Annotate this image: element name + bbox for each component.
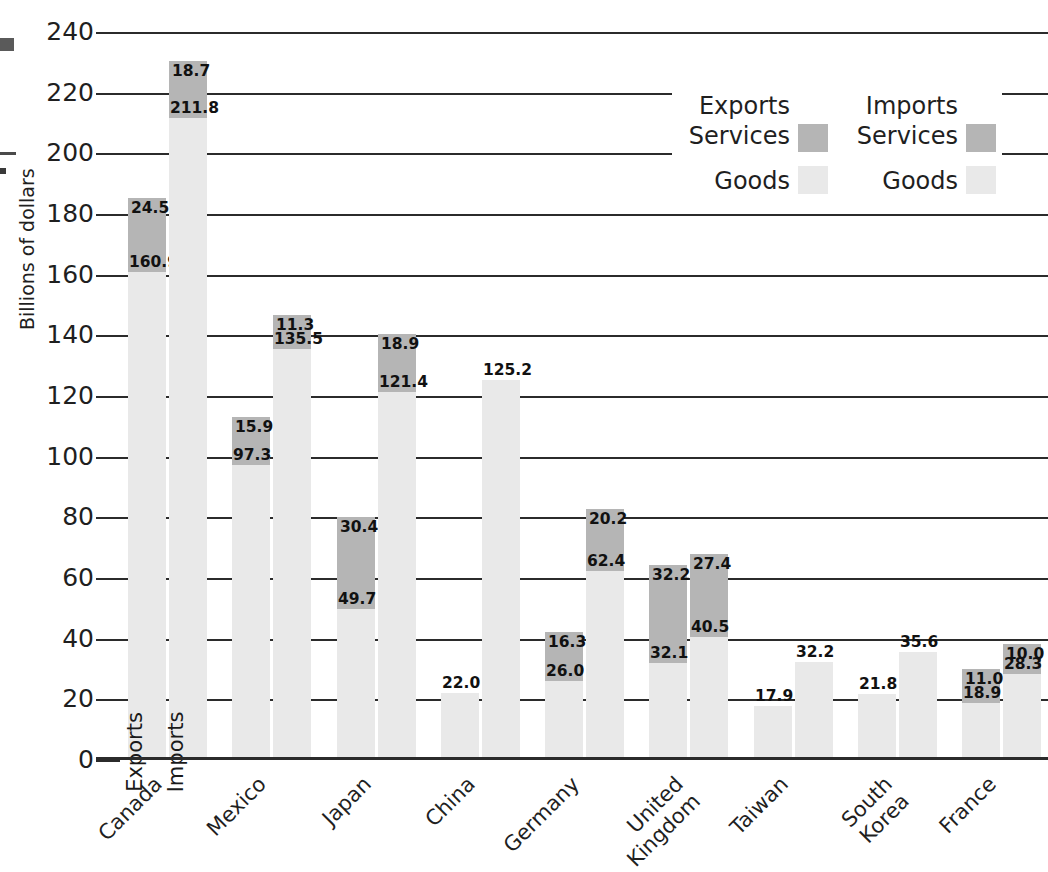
bar-value-label-services: 30.4 <box>340 520 378 535</box>
y-axis-tick-label: 140 <box>20 322 94 347</box>
x-axis-category-label: Mexico <box>202 772 271 841</box>
bar-segment-goods <box>169 118 207 760</box>
legend-label-imports-goods: Goods <box>840 167 958 195</box>
bar-imports <box>482 380 520 760</box>
y-axis-title: Billions of dollars <box>16 168 38 330</box>
scan-artifact-square <box>0 38 14 51</box>
bar-exports <box>858 694 896 760</box>
bar-imports <box>795 662 833 760</box>
bar-value-label-services: 18.9 <box>381 337 419 352</box>
bar-imports <box>690 554 728 760</box>
bar-value-label-goods: 32.2 <box>796 645 834 660</box>
bar-value-label-goods: 62.4 <box>587 554 625 569</box>
legend-swatch-exports-goods <box>798 166 828 194</box>
bar-value-label-goods: 97.3 <box>233 448 271 463</box>
bar-value-label-services: 18.7 <box>172 64 210 79</box>
bar-segment-goods <box>858 694 896 760</box>
y-axis-tick <box>96 32 120 34</box>
bar-value-label-goods: 21.8 <box>859 677 897 692</box>
bar-value-label-services: 20.2 <box>589 512 627 527</box>
y-axis-tick-label: 120 <box>20 383 94 408</box>
bar-exports: Exports <box>128 198 166 760</box>
bar-exports <box>754 706 792 760</box>
bar-value-label-goods: 32.1 <box>650 646 688 661</box>
y-axis-tick-label: 40 <box>20 626 94 651</box>
bar-value-label-goods: 26.0 <box>546 664 584 679</box>
x-axis-category-label: Taiwan <box>725 772 792 839</box>
bar-value-label-goods: 40.5 <box>691 620 729 635</box>
scan-artifact-tick <box>0 168 6 174</box>
bar-segment-goods <box>482 380 520 760</box>
bar-value-label-services: 27.4 <box>693 557 731 572</box>
bar-imports: Imports <box>169 61 207 760</box>
bar-segment-goods <box>754 706 792 760</box>
bar-exports <box>232 417 270 760</box>
gridline <box>118 335 1048 337</box>
bar-value-label-services: 16.3 <box>548 635 586 650</box>
gridline <box>118 214 1048 216</box>
bar-segment-goods <box>441 693 479 760</box>
bar-exports <box>545 632 583 760</box>
bar-value-label-goods: 17.9 <box>755 689 793 704</box>
legend-swatch-exports-services <box>798 124 828 152</box>
y-axis-tick-label: 220 <box>20 80 94 105</box>
bar-segment-goods <box>545 681 583 760</box>
bar-value-label-goods: 121.4 <box>379 375 428 390</box>
bar-segment-goods <box>586 571 624 760</box>
bar-segment-goods <box>962 703 1000 760</box>
bar-imports <box>378 334 416 760</box>
y-axis-tick <box>96 93 120 95</box>
bar-value-label-services: 32.2 <box>652 568 690 583</box>
bar-value-label-services: 11.3 <box>276 318 314 333</box>
bar-value-label-services: 10.0 <box>1006 647 1044 662</box>
legend-header-exports: Exports <box>672 92 790 120</box>
legend: Exports Services Goods Imports Services … <box>672 92 1002 188</box>
bar-value-label-services: 24.5 <box>131 201 169 216</box>
y-axis-tick <box>96 457 120 459</box>
x-axis-category-label: China <box>420 772 479 831</box>
bar-exports <box>441 693 479 760</box>
scan-artifact-dash <box>0 152 16 155</box>
gridline <box>118 32 1048 34</box>
y-axis-tick-label: 180 <box>20 201 94 226</box>
bar-value-label-goods: 35.6 <box>900 635 938 650</box>
x-axis-category-label: South Korea <box>836 772 913 849</box>
in-bar-label-imports: Imports <box>164 712 188 793</box>
y-axis-tick <box>96 699 120 701</box>
x-axis-baseline <box>96 757 1048 760</box>
y-axis-tick <box>96 517 120 519</box>
y-axis-tick <box>96 153 120 155</box>
bar-segment-goods <box>337 609 375 760</box>
bar-segment-goods <box>899 652 937 760</box>
bar-value-label-services: 15.9 <box>235 420 273 435</box>
bar-segment-goods <box>795 662 833 760</box>
bar-chart: Billions of dollars 02040608010012014016… <box>0 0 1048 872</box>
bar-exports <box>337 517 375 760</box>
y-axis-tick <box>96 639 120 641</box>
bar-segment-goods <box>378 392 416 760</box>
y-axis-tick-label: 240 <box>20 19 94 44</box>
bar-segment-goods <box>128 272 166 760</box>
legend-label-exports-services: Services <box>672 122 790 150</box>
bar-value-label-goods: 135.5 <box>274 332 323 347</box>
gridline <box>118 275 1048 277</box>
bar-value-label-goods: 125.2 <box>483 363 532 378</box>
x-axis-category-label: Japan <box>317 772 375 830</box>
bar-imports <box>273 315 311 760</box>
bar-segment-goods <box>273 349 311 760</box>
y-axis-tick-label: 60 <box>20 565 94 590</box>
legend-header-imports: Imports <box>840 92 958 120</box>
y-axis-tick-label: 200 <box>20 140 94 165</box>
y-axis-tick <box>96 396 120 398</box>
legend-swatch-imports-goods <box>966 166 996 194</box>
y-axis-tick-label: 100 <box>20 444 94 469</box>
bar-exports <box>649 565 687 760</box>
y-axis-tick <box>96 578 120 580</box>
bar-imports <box>586 509 624 760</box>
y-axis-tick <box>96 275 120 277</box>
bar-segment-goods <box>1003 674 1041 760</box>
legend-label-imports-services: Services <box>840 122 958 150</box>
y-axis-tick-label: 160 <box>20 262 94 287</box>
y-axis-tick <box>96 214 120 216</box>
legend-label-exports-goods: Goods <box>672 167 790 195</box>
